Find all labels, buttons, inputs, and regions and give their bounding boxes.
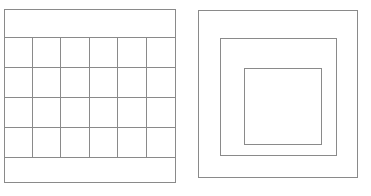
middle-rectangle (221, 39, 337, 156)
nested-squares-figure (199, 11, 358, 178)
outer-rectangle (199, 11, 358, 178)
inner-rectangle (245, 69, 322, 145)
grid-figure (5, 10, 176, 183)
figure-svg (0, 0, 371, 196)
figure-canvas (0, 0, 371, 196)
